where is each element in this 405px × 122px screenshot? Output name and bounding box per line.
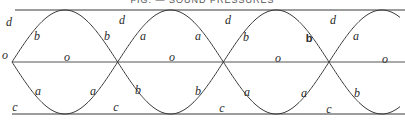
label-a: a bbox=[140, 30, 146, 42]
label-o: o bbox=[64, 51, 70, 63]
figure-header: FIG. — SOUND PRESSURES bbox=[0, 0, 405, 5]
label-d: d bbox=[330, 14, 336, 26]
label-o: o bbox=[275, 52, 281, 64]
label-o: o bbox=[382, 53, 388, 65]
label-b: b bbox=[354, 87, 360, 99]
label-d: d bbox=[119, 14, 125, 26]
label-b: b bbox=[243, 31, 249, 43]
label-b: b bbox=[306, 33, 313, 44]
label-o: o bbox=[2, 49, 8, 61]
sound-pressure-figure: FIG. — SOUND PRESSURES ddddbbaabbaoooooa… bbox=[0, 0, 405, 122]
label-b: b bbox=[135, 84, 141, 96]
label-c: c bbox=[12, 101, 17, 113]
label-c: c bbox=[326, 103, 331, 115]
label-b: b bbox=[195, 85, 201, 97]
label-b: b bbox=[34, 30, 40, 42]
label-d: d bbox=[225, 14, 231, 26]
label-o: o bbox=[169, 51, 175, 63]
label-d: d bbox=[6, 16, 12, 28]
label-a: a bbox=[301, 87, 307, 99]
label-a: a bbox=[244, 86, 250, 98]
label-b: b bbox=[104, 30, 110, 42]
label-c: c bbox=[113, 101, 118, 113]
label-a: a bbox=[35, 85, 41, 97]
wave-diagram bbox=[0, 0, 405, 122]
label-a: a bbox=[195, 30, 201, 42]
label-a: a bbox=[90, 85, 96, 97]
label-a: a bbox=[353, 30, 359, 42]
label-c: c bbox=[219, 102, 224, 114]
